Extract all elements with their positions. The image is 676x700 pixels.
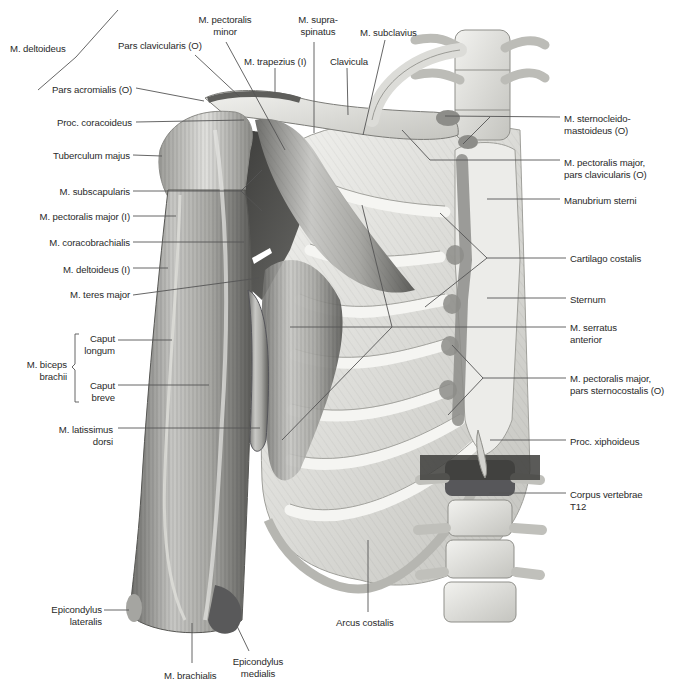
label-caput-longum: Caputlongum [80,333,115,357]
label-text-line: pars clavicularis (O) [564,169,674,181]
label-text-line: Epicondylus [30,604,102,616]
label-text-line: Caput [80,333,115,345]
label-text-line: M. coracobrachialis [32,237,130,249]
label-text-line: M. latissimus [30,424,113,436]
label-pars-acromialis-o: Pars acromialis (O) [52,84,132,96]
label-m-brachialis: M. brachialis [164,670,234,682]
label-text-line: Pars acromialis (O) [52,84,132,96]
label-text-line: Corpus vertebrae [570,489,660,501]
label-brackets [72,334,79,402]
label-corpus-vertebrae-t12: Corpus vertebraeT12 [570,489,660,513]
label-proc-xiphoideus: Proc. xiphoideus [570,436,660,448]
label-text-line: M. deltoideus [10,43,90,55]
label-caput-breve: Caputbreve [80,380,115,404]
label-text-line: M. supra- [293,14,343,26]
label-m-pectoralis-major-i: M. pectoralis major (I) [12,211,130,223]
label-m-supraspinatus: M. supra-spinatus [293,14,343,38]
label-clavicula: Clavicula [330,56,380,68]
label-m-deltoideus: M. deltoideus [10,43,90,55]
label-text-line: M. serratus [570,322,650,334]
label-text-line: dorsi [30,436,113,448]
label-m-pectoralis-major-clav: M. pectoralis major,pars clavicularis (O… [564,157,674,181]
label-text-line: M. pectoralis major (I) [12,211,130,223]
label-text-line: Clavicula [330,56,380,68]
epicondylus-lateralis-shape [126,594,142,622]
label-m-deltoideus-i: M. deltoideus (I) [42,264,130,276]
label-text-line: spinatus [293,26,343,38]
label-m-latissimus-dorsi: M. latissimusdorsi [30,424,113,448]
label-text-line: Cartilago costalis [570,253,670,265]
label-pars-clavicularis-o: Pars clavicularis (O) [118,40,208,52]
label-text-line: minor [195,26,255,38]
label-m-trapezius-i: M. trapezius (I) [244,56,319,68]
label-m-coracobrachialis: M. coracobrachialis [32,237,130,249]
label-text-line: medialis [228,668,288,680]
label-proc-coracoideus: Proc. coracoideus [52,117,132,129]
label-text-line: anterior [570,334,650,346]
leader-pars-acromialis-o [136,88,204,101]
label-text-line: Pars clavicularis (O) [118,40,208,52]
bracket-m-biceps-brachii [72,334,79,402]
label-m-subclavius: M. subclavius [360,27,430,39]
label-text-line: Proc. xiphoideus [570,436,660,448]
label-tuberculum-majus: Tuberculum majus [42,150,130,162]
label-text-line: M. pectoralis major, [570,373,676,385]
label-manubrium-sterni: Manubrium sterni [564,195,664,207]
label-text-line: Manubrium sterni [564,195,664,207]
label-text-line: M. biceps [12,359,67,371]
label-m-pectoralis-minor: M. pectoralisminor [195,14,255,38]
label-text-line: Sternum [570,294,630,306]
label-m-biceps-brachii: M. bicepsbrachii [12,359,67,383]
label-text-line: M. teres major [42,289,130,301]
label-text-line: M. subscapularis [42,186,130,198]
label-cartilago-costalis: Cartilago costalis [570,253,670,265]
label-text-line: M. deltoideus (I) [42,264,130,276]
label-text-line: Proc. coracoideus [52,117,132,129]
label-epicondylus-lateralis: Epicondyluslateralis [30,604,102,628]
label-text-line: breve [80,392,115,404]
label-text-line: Tuberculum majus [42,150,130,162]
label-text-line: M. pectoralis [195,14,255,26]
label-text-line: longum [80,345,115,357]
label-text-line: brachii [12,371,67,383]
leader-tuberculum-majus [133,155,162,156]
label-m-subscapularis: M. subscapularis [42,186,130,198]
label-text-line: M. pectoralis major, [564,157,674,169]
label-text-line: M. trapezius (I) [244,56,319,68]
label-text-line: mastoideus (O) [564,125,664,137]
label-text-line: lateralis [30,616,102,628]
label-arcus-costalis: Arcus costalis [336,617,416,629]
leader-epicondylus-medialis [236,624,249,651]
label-m-pectoralis-major-stern: M. pectoralis major,pars sternocostalis … [570,373,676,397]
label-text-line: Caput [80,380,115,392]
label-text-line: T12 [570,501,660,513]
leader-pars-clavicularis-o [195,55,240,97]
label-m-sternocleidomastoideus-o: M. sternocleido-mastoideus (O) [564,113,664,137]
label-m-serratus-anterior: M. serratusanterior [570,322,650,346]
label-text-line: Arcus costalis [336,617,416,629]
label-m-teres-major: M. teres major [42,289,130,301]
label-epicondylus-medialis: Epicondylusmedialis [228,656,288,680]
label-text-line: M. brachialis [164,670,234,682]
label-text-line: pars sternocostalis (O) [570,385,676,397]
label-text-line: Epicondylus [228,656,288,668]
label-text-line: M. subclavius [360,27,430,39]
label-sternum: Sternum [570,294,630,306]
label-text-line: M. sternocleido- [564,113,664,125]
